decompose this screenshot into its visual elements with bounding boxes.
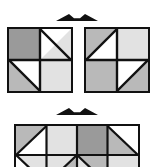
- square-right: [84, 27, 150, 93]
- cell-0-0: [9, 29, 40, 60]
- cell-0-1: [47, 126, 78, 155]
- cell-1-0: [86, 60, 117, 91]
- figure-canvas: [0, 0, 153, 167]
- cell-1-3: [108, 155, 139, 167]
- bottom-double-arrow: [56, 107, 98, 118]
- cell-1-1: [40, 60, 71, 91]
- top-double-arrow: [56, 13, 98, 24]
- square-left: [7, 27, 73, 93]
- cell-0-2: [77, 126, 108, 155]
- cell-0-1: [117, 29, 148, 60]
- rectangle-strip: [14, 124, 140, 167]
